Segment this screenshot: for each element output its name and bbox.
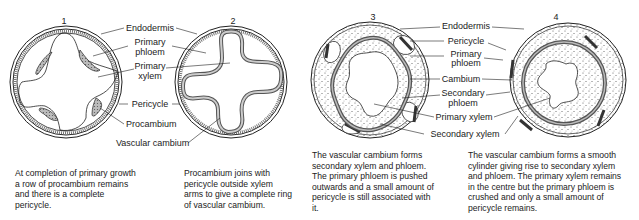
- label-secondary-xylem: Secondary xylem: [430, 129, 499, 139]
- panel-3-cross-section: 3: [311, 12, 429, 138]
- label-pericycle: Pericycle: [448, 36, 485, 46]
- label-primary-xylem: xylem: [138, 71, 162, 81]
- panel-1-cross-section: 1: [10, 16, 122, 138]
- panel-number: 4: [553, 12, 558, 22]
- label-cambium: Cambium: [442, 74, 481, 84]
- label-endodermis: Endodermis: [126, 23, 175, 33]
- label-pericycle: Pericycle: [132, 99, 169, 109]
- caption-panel-3: The vascular cambium forms secondary xyl…: [312, 150, 436, 214]
- panel-2-cross-section: 2: [175, 16, 287, 138]
- label-primary-xylem: Primary: [135, 61, 166, 71]
- caption-panel-1: At completion of primary growth a row of…: [15, 168, 140, 210]
- label-procambium: Procambium: [126, 119, 177, 129]
- label-endodermis: Endodermis: [442, 21, 491, 31]
- panel-number: 3: [370, 12, 375, 22]
- label-primary-xylem: Primary xylem: [435, 112, 492, 122]
- caption-panel-4: The vascular cambium forms a smooth cyli…: [468, 150, 628, 214]
- panel-4-cross-section: 4: [510, 12, 626, 137]
- panel-number: 2: [230, 16, 235, 26]
- label-primary-phloem: phloem: [135, 47, 165, 57]
- caption-panel-2: Procambium joins with pericycle outside …: [184, 168, 292, 210]
- label-vascular-cambium: Vascular cambium: [116, 138, 189, 148]
- stem-development-diagram: 1 2 Endodermis Primary phloem Primary xy: [0, 0, 639, 150]
- panel-number: 1: [61, 16, 66, 26]
- label-secondary-phloem: Secondary: [441, 88, 485, 98]
- label-secondary-phloem: phloem: [448, 98, 478, 108]
- label-primary-phloem: Primary: [135, 37, 166, 47]
- label-primary-phloem: phloem: [451, 58, 481, 68]
- right-labels: Endodermis Pericycle Primary phloem Camb…: [430, 21, 499, 139]
